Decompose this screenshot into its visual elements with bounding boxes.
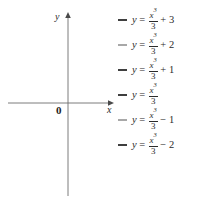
- fraction-numerator: x3: [149, 109, 158, 122]
- equals-sign: =: [139, 40, 145, 51]
- fraction-denominator: 3: [151, 97, 156, 107]
- x-axis-label: x: [107, 104, 111, 115]
- legend-swatch: [118, 119, 127, 121]
- equation-lhs: y: [132, 140, 137, 151]
- fraction-denominator: 3: [151, 147, 156, 157]
- fraction-denominator: 3: [151, 72, 156, 82]
- legend-item: y=x33+ 1: [118, 60, 174, 80]
- fraction-numerator: x3: [149, 59, 158, 72]
- exponent: 3: [154, 6, 157, 13]
- fraction-numerator: x3: [149, 9, 158, 22]
- legend-equation: y=x33− 1: [132, 109, 174, 131]
- fraction: x33: [149, 134, 158, 156]
- legend-item: y=x33− 2: [118, 135, 174, 155]
- y-axis-arrowhead: [65, 12, 71, 18]
- exponent: 3: [154, 31, 157, 38]
- constant-term: − 2: [160, 140, 174, 151]
- legend: y=x33+ 3y=x33+ 2y=x33+ 1y=x33y=x33− 1y=x…: [118, 10, 211, 170]
- legend-equation: y=x33: [132, 84, 159, 106]
- exponent: 3: [154, 106, 157, 113]
- legend-equation: y=x33− 2: [132, 134, 174, 156]
- cubic-family-figure: y x 0 y=x33+ 3y=x33+ 2y=x33+ 1y=x33y=x33…: [0, 0, 211, 209]
- legend-swatch: [118, 19, 127, 21]
- constant-term: + 2: [160, 40, 174, 51]
- fraction: x33: [149, 34, 158, 56]
- legend-equation: y=x33+ 1: [132, 59, 174, 81]
- equation-lhs: y: [132, 115, 137, 126]
- constant-term: + 1: [160, 65, 174, 76]
- fraction-numerator: x3: [149, 84, 158, 97]
- legend-item: y=x33− 1: [118, 110, 174, 130]
- equation-lhs: y: [132, 40, 137, 51]
- legend-swatch: [118, 69, 127, 71]
- fraction-denominator: 3: [151, 22, 156, 32]
- legend-swatch: [118, 94, 127, 96]
- fraction: x33: [149, 59, 158, 81]
- legend-item: y=x33+ 3: [118, 10, 174, 30]
- y-axis-label: y: [55, 11, 59, 22]
- fraction: x33: [149, 109, 158, 131]
- equals-sign: =: [139, 90, 145, 101]
- equals-sign: =: [139, 65, 145, 76]
- origin-label: 0: [56, 104, 62, 116]
- legend-swatch: [118, 44, 127, 46]
- fraction-numerator: x3: [149, 34, 158, 47]
- exponent: 3: [154, 81, 157, 88]
- equals-sign: =: [139, 15, 145, 26]
- legend-equation: y=x33+ 3: [132, 9, 174, 31]
- legend-item: y=x33+ 2: [118, 35, 174, 55]
- exponent: 3: [154, 56, 157, 63]
- fraction: x33: [149, 84, 158, 106]
- equation-lhs: y: [132, 65, 137, 76]
- plot-area: y x 0: [0, 0, 120, 209]
- legend-item: y=x33: [118, 85, 159, 105]
- legend-equation: y=x33+ 2: [132, 34, 174, 56]
- fraction: x33: [149, 9, 158, 31]
- fraction-numerator: x3: [149, 134, 158, 147]
- equals-sign: =: [139, 140, 145, 151]
- legend-swatch: [118, 144, 127, 146]
- constant-term: − 1: [160, 115, 174, 126]
- fraction-denominator: 3: [151, 122, 156, 132]
- equation-lhs: y: [132, 15, 137, 26]
- constant-term: + 3: [160, 15, 174, 26]
- equation-lhs: y: [132, 90, 137, 101]
- fraction-denominator: 3: [151, 47, 156, 57]
- equals-sign: =: [139, 115, 145, 126]
- exponent: 3: [154, 131, 157, 138]
